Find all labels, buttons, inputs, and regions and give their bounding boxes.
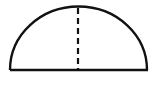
semicircle-diagram bbox=[0, 0, 155, 101]
